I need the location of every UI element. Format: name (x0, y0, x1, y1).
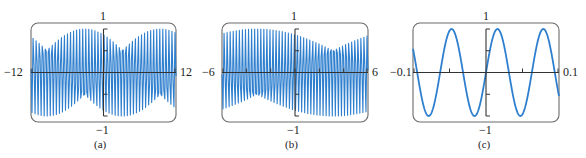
ymax-label: 1 (291, 10, 297, 22)
xmax-label: 6 (372, 66, 378, 78)
ymin-label: −1 (96, 124, 109, 136)
xmin-label: −0.1 (390, 66, 412, 78)
xmin-label: −6 (202, 66, 215, 78)
graph-panel-c: 1 −0.1 0.1 −1 (c) (386, 0, 586, 158)
ymin-label: −1 (479, 124, 492, 136)
graph-panel-a: 1 −12 12 −1 (a) (0, 0, 195, 158)
xmax-label: 0.1 (563, 66, 578, 78)
caption: (b) (285, 139, 298, 150)
xmin-label: −12 (4, 66, 23, 78)
ymax-label: 1 (100, 10, 106, 22)
xmax-label: 12 (180, 66, 192, 78)
graph-panel-b: 1 −6 6 −1 (b) (195, 0, 385, 158)
ymin-label: −1 (287, 124, 300, 136)
caption: (a) (94, 139, 106, 150)
ymax-label: 1 (483, 10, 489, 22)
caption: (c) (478, 139, 490, 150)
